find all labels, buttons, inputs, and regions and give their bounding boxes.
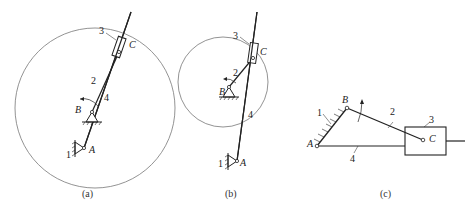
slider-block-3-c xyxy=(405,127,446,155)
mechanism-diagrams: 3 C 2 4 B 1 A (a) xyxy=(0,0,471,207)
joint-a-c xyxy=(315,144,319,148)
label-b-c: B xyxy=(342,94,348,105)
joint-c-c xyxy=(421,138,425,142)
label-a-a: A xyxy=(88,144,96,155)
label-4-c: 4 xyxy=(350,153,355,164)
label-c-c: C xyxy=(429,133,436,144)
path-circle-a xyxy=(15,28,175,188)
caption-b: (b) xyxy=(225,188,237,200)
label-3-b: 3 xyxy=(233,30,238,41)
joint-c-b xyxy=(251,56,254,59)
label-4-b: 4 xyxy=(248,109,253,120)
label-1-a: 1 xyxy=(66,149,71,160)
caption-a: (a) xyxy=(82,188,93,200)
label-a-c: A xyxy=(306,138,314,149)
label-1-b: 1 xyxy=(218,158,223,169)
joint-b-c xyxy=(345,106,349,110)
label-b-a: B xyxy=(75,104,81,115)
label-c-a: C xyxy=(129,39,136,50)
ground-pivot-b-a xyxy=(82,110,102,125)
rotation-arrow-icon-c xyxy=(358,101,362,122)
label-2-a: 2 xyxy=(91,75,96,86)
ground-pivot-a-a xyxy=(72,140,86,157)
label-3-a: 3 xyxy=(99,25,104,36)
figure-a: 3 C 2 4 B 1 A (a) xyxy=(15,12,175,200)
figure-c: 1 B 2 3 C A 4 (c) xyxy=(306,94,465,200)
joint-c-a xyxy=(117,50,120,53)
label-4-a: 4 xyxy=(104,92,109,103)
ground-pivot-a-b xyxy=(225,153,239,170)
crank-link-2-a xyxy=(92,52,119,112)
caption-c: (c) xyxy=(380,188,391,200)
label-2-b: 2 xyxy=(233,67,238,78)
label-1-c: 1 xyxy=(317,107,322,118)
label-3-c: 3 xyxy=(429,114,434,125)
label-b-b: B xyxy=(219,86,225,97)
crank-link-2-c xyxy=(347,108,423,140)
figure-b: 3 C 2 4 B 1 A (b) xyxy=(178,12,268,200)
label-2-c: 2 xyxy=(390,106,395,117)
label-c-b: C xyxy=(260,46,267,57)
label-a-b: A xyxy=(239,157,247,168)
